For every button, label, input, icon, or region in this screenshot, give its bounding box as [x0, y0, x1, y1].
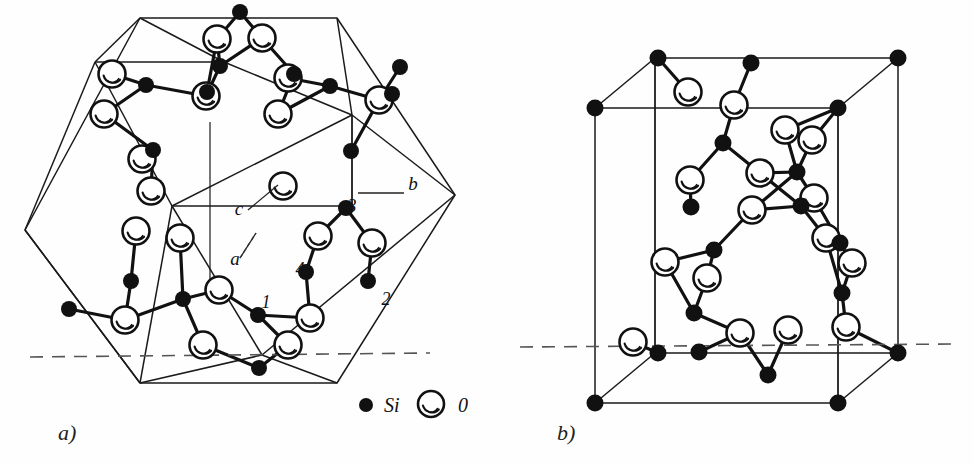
oxygen-atom — [123, 218, 150, 245]
silicon-atom — [392, 59, 408, 75]
silicon-atom — [683, 199, 700, 216]
oxygen-atom — [747, 160, 774, 187]
figure-canvas: bca1234Si0a)b) — [0, 0, 974, 465]
oxygen-atom — [620, 329, 647, 356]
oxygen-atom — [694, 265, 721, 292]
oxygen-atom — [167, 225, 194, 252]
silicon-atom — [890, 50, 907, 67]
silicon-atom — [691, 344, 708, 361]
oxygen-atom — [772, 117, 799, 144]
oxygen-atom — [249, 25, 276, 52]
site-number-4: 4 — [296, 259, 305, 279]
silicon-atom — [834, 285, 851, 302]
oxygen-atom — [839, 250, 866, 277]
oxygen-atom — [833, 314, 860, 341]
oxygen-atom — [359, 230, 386, 257]
oxygen-atom — [799, 127, 826, 154]
crystal-structure-figure: bca1234Si0a)b) — [0, 0, 974, 465]
oxygen-atom — [91, 101, 118, 128]
silicon-atom — [793, 198, 810, 215]
legend-label-si: Si — [384, 394, 400, 416]
oxygen-atom — [721, 92, 748, 119]
oxygen-atom — [206, 277, 233, 304]
oxygen-atoms — [91, 25, 866, 359]
silicon-atom — [832, 235, 849, 252]
silicon-atom — [286, 66, 302, 82]
oxygen-atom — [297, 305, 324, 332]
oxygen-atom — [112, 307, 139, 334]
oxygen-atom — [204, 26, 231, 53]
oxygen-atom — [138, 178, 165, 205]
oxygen-atom — [727, 320, 754, 347]
silicon-atom — [138, 77, 154, 93]
silicon-atom — [706, 242, 723, 259]
site-number-3: 3 — [347, 196, 357, 216]
axis-label-c: c — [235, 198, 244, 219]
silicon-atom — [587, 395, 604, 412]
oxygen-atom — [675, 79, 702, 106]
legend-label-o: 0 — [458, 394, 468, 416]
oxygen-atom — [265, 101, 292, 128]
silicon-atom — [343, 143, 359, 159]
site-number-2: 2 — [382, 289, 391, 309]
silicon-atom — [650, 345, 667, 362]
panel-label-b: b) — [557, 420, 575, 445]
silicon-atom — [789, 164, 806, 181]
silicon-atom — [384, 86, 400, 102]
silicon-atom — [830, 100, 847, 117]
silicon-atom — [251, 360, 267, 376]
oxygen-atom — [418, 391, 444, 417]
oxygen-atom — [677, 167, 704, 194]
axis-label-b: b — [408, 173, 418, 194]
oxygen-atom — [775, 317, 802, 344]
silicon-atom — [145, 142, 161, 158]
silicon-atom — [123, 273, 139, 289]
silicon-atom — [61, 301, 77, 317]
legend-si-icon — [359, 398, 373, 412]
site-number-1: 1 — [262, 292, 271, 312]
silicon-atom — [175, 291, 191, 307]
oxygen-atom — [275, 332, 302, 359]
silicon-atom — [199, 84, 215, 100]
bond-lines — [69, 12, 898, 375]
panel-label-a: a) — [58, 420, 76, 445]
silicon-atom — [743, 55, 760, 72]
silicon-atom — [322, 78, 338, 94]
oxygen-atom — [739, 197, 766, 224]
oxygen-atom — [270, 173, 297, 200]
oxygen-atom — [99, 61, 126, 88]
silicon-atom — [715, 135, 732, 152]
oxygen-atom — [190, 332, 217, 359]
silicon-atom — [587, 100, 604, 117]
axis-label-a: a — [230, 248, 240, 269]
silicon-atom — [232, 4, 248, 20]
oxygen-atom — [305, 223, 332, 250]
silicon-atom — [760, 367, 777, 384]
oxygen-atom — [652, 249, 679, 276]
silicon-atom — [830, 395, 847, 412]
silicon-atom — [212, 58, 228, 74]
reference-dashed-lines — [30, 344, 960, 357]
silicon-atom — [890, 345, 907, 362]
silicon-atom — [650, 50, 667, 67]
silicon-atom — [360, 273, 376, 289]
silicon-atom — [686, 305, 703, 322]
